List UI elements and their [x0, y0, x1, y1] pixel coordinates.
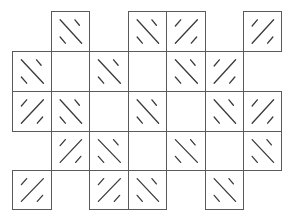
- tile-slash: [51, 131, 90, 171]
- backslash-hatch-icon: [13, 52, 51, 91]
- tile-backslash: [243, 131, 282, 171]
- tile-slash: [12, 91, 52, 132]
- slash-hatch-icon: [244, 12, 281, 51]
- slash-hatch-icon: [244, 92, 281, 131]
- backslash-hatch-icon: [129, 92, 166, 131]
- backslash-hatch-icon: [90, 52, 128, 91]
- slash-hatch-icon: [206, 52, 243, 91]
- backslash-hatch-icon: [206, 92, 243, 131]
- tile-slash: [205, 51, 244, 92]
- backslash-hatch-icon: [129, 171, 166, 209]
- slash-hatch-icon: [13, 92, 51, 131]
- tile-backslash: [12, 51, 52, 92]
- backslash-hatch-icon: [167, 52, 205, 91]
- tile-backslash: [166, 51, 206, 92]
- backslash-hatch-icon: [90, 132, 128, 170]
- slash-hatch-icon: [90, 171, 128, 209]
- tile-backslash: [205, 91, 244, 132]
- tile-backslash: [166, 131, 206, 171]
- tile-slash: [89, 170, 129, 210]
- empty-cell: [205, 131, 244, 171]
- tile-slash: [12, 170, 52, 210]
- tile-backslash: [51, 91, 90, 132]
- tile-backslash: [89, 131, 129, 171]
- tile-slash: [243, 91, 282, 132]
- backslash-hatch-icon: [52, 12, 89, 51]
- empty-cell: [166, 91, 206, 132]
- backslash-hatch-icon: [52, 92, 89, 131]
- tile-backslash: [51, 11, 90, 52]
- slash-hatch-icon: [167, 12, 205, 51]
- empty-cell: [89, 91, 129, 132]
- slash-hatch-icon: [13, 171, 51, 209]
- empty-cell: [51, 51, 90, 92]
- empty-cell: [128, 51, 167, 92]
- tile-backslash: [128, 91, 167, 132]
- tile-backslash: [89, 51, 129, 92]
- slash-hatch-icon: [52, 132, 89, 170]
- tile-grid-diagram: [0, 0, 287, 221]
- backslash-hatch-icon: [167, 132, 205, 170]
- tile-backslash: [128, 11, 167, 52]
- tile-backslash: [128, 170, 167, 210]
- tile-backslash: [205, 170, 244, 210]
- tile-slash: [243, 11, 282, 52]
- empty-cell: [128, 131, 167, 171]
- backslash-hatch-icon: [244, 132, 281, 170]
- backslash-hatch-icon: [206, 171, 243, 209]
- backslash-hatch-icon: [129, 12, 166, 51]
- tile-slash: [166, 11, 206, 52]
